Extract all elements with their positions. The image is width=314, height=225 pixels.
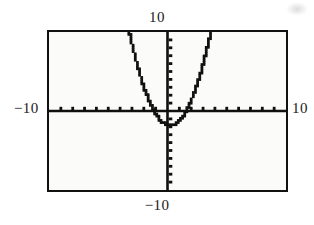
- y-tick: [169, 86, 173, 89]
- x-tick: [202, 107, 205, 110]
- graph-frame: [47, 30, 288, 192]
- y-tick: [169, 70, 173, 73]
- x-tick: [95, 107, 98, 110]
- y-tick: [169, 173, 173, 176]
- axis-label-bottom: −10: [0, 198, 314, 213]
- x-tick: [119, 107, 122, 110]
- axis-label-top: 10: [0, 10, 314, 25]
- x-tick: [178, 107, 181, 110]
- y-tick: [169, 149, 173, 152]
- curve-pixel: [209, 32, 212, 34]
- x-tick: [131, 107, 134, 110]
- y-tick: [169, 94, 173, 97]
- axis-label-left: −10: [14, 101, 39, 116]
- y-tick: [169, 181, 173, 184]
- y-tick: [169, 165, 173, 168]
- plot-area: [49, 32, 286, 190]
- axes-group: [49, 32, 286, 190]
- plot-svg: [49, 32, 286, 190]
- x-tick: [107, 107, 110, 110]
- y-tick: [169, 62, 173, 65]
- y-tick: [169, 102, 173, 105]
- y-tick: [169, 157, 173, 160]
- y-tick: [169, 141, 173, 144]
- y-tick: [169, 39, 173, 42]
- y-tick: [169, 133, 173, 136]
- x-tick: [59, 107, 62, 110]
- x-tick: [71, 107, 74, 110]
- y-tick: [169, 78, 173, 81]
- x-tick: [237, 107, 240, 110]
- x-tick: [214, 107, 217, 110]
- x-tick: [142, 107, 145, 110]
- x-tick: [83, 107, 86, 110]
- x-tick: [273, 107, 276, 110]
- x-tick: [261, 107, 264, 110]
- x-tick: [249, 107, 252, 110]
- x-tick: [225, 107, 228, 110]
- y-tick: [169, 54, 173, 57]
- graph-figure: 10 −10 10 −10: [0, 0, 314, 225]
- y-tick: [169, 118, 173, 121]
- axis-label-right: 10: [292, 101, 308, 116]
- y-tick: [169, 46, 173, 49]
